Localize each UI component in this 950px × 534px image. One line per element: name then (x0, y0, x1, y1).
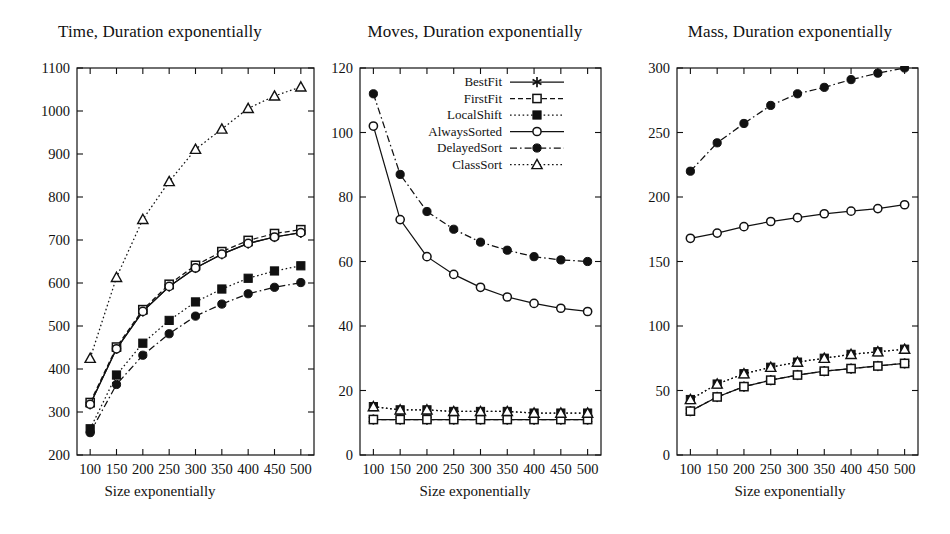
data-point-marker (423, 415, 431, 423)
data-point-marker (740, 383, 748, 391)
data-point-marker (112, 371, 120, 379)
x-axis-tick-label: 500 (577, 461, 599, 477)
data-point-marker (450, 225, 458, 233)
data-point-marker (820, 210, 828, 218)
legend: BestFitFirstFitLocalShiftAlwaysSortedDel… (428, 74, 564, 172)
series-alwayssorted (686, 201, 908, 243)
data-point-marker (369, 415, 377, 423)
data-point-marker (297, 229, 305, 237)
x-axis-tick-label: 400 (523, 461, 545, 477)
data-point-marker (296, 82, 306, 91)
y-axis-tick-label: 250 (648, 125, 670, 141)
data-point-marker (901, 64, 909, 72)
data-point-marker (244, 274, 252, 282)
x-axis-tick-label: 100 (680, 461, 702, 477)
y-axis-tick-label: 150 (648, 254, 670, 270)
chart-panel-mass: Mass, Duration exponentially 05010015020… (630, 0, 950, 534)
data-point-marker (740, 119, 748, 127)
data-point-marker (793, 371, 801, 379)
plot-area-mass: 0501001502002503001001502002503003504004… (630, 0, 950, 534)
data-point-marker (112, 380, 120, 388)
x-axis-tick-label: 400 (237, 461, 259, 477)
x-axis-tick-label: 200 (733, 461, 755, 477)
plot-area-time: 2003004005006007008009001000110010015020… (0, 0, 320, 534)
x-axis-tick-label: 400 (840, 461, 862, 477)
y-axis-tick-label: 300 (48, 404, 70, 420)
data-point-marker (901, 201, 909, 209)
data-point-marker (423, 253, 431, 261)
data-point-marker (165, 330, 173, 338)
data-point-marker (270, 267, 278, 275)
data-point-marker (244, 290, 252, 298)
data-point-marker (218, 300, 226, 308)
data-point-marker (686, 407, 694, 415)
x-axis-tick-label: 300 (787, 461, 809, 477)
x-axis-tick-label: 100 (363, 461, 385, 477)
data-point-marker (503, 246, 511, 254)
data-point-marker (476, 415, 484, 423)
data-point-marker (86, 400, 94, 408)
data-point-marker (139, 307, 147, 315)
series-delayedsort (686, 64, 908, 175)
plot-area-moves: 0204060801001201001502002503003504004505… (320, 0, 630, 534)
data-point-marker (767, 217, 775, 225)
y-axis-tick-label: 400 (48, 361, 70, 377)
data-point-marker (269, 91, 279, 100)
data-point-marker (139, 339, 147, 347)
data-point-marker (874, 205, 882, 213)
chart-panel-time: Time, Duration exponentially 20030040050… (0, 0, 320, 534)
data-point-marker (847, 364, 855, 372)
data-point-marker (557, 304, 565, 312)
y-axis-tick-label: 200 (48, 447, 70, 463)
y-axis-tick-label: 1100 (42, 60, 70, 76)
data-point-marker (297, 262, 305, 270)
legend-label: DelayedSort (437, 140, 502, 155)
data-point-marker (218, 285, 226, 293)
data-point-marker (901, 359, 909, 367)
data-point-marker (503, 415, 511, 423)
x-axis-tick-label: 450 (264, 461, 286, 477)
x-axis-tick-label: 350 (211, 461, 233, 477)
x-axis-tick-label: 100 (79, 461, 101, 477)
data-point-marker (217, 124, 227, 133)
data-point-marker (165, 316, 173, 324)
x-axis-tick-label: 150 (106, 461, 128, 477)
x-axis-tick-label: 450 (550, 461, 572, 477)
y-axis-tick-label: 600 (48, 275, 70, 291)
data-point-marker (847, 207, 855, 215)
x-axis-tick-label: 250 (760, 461, 782, 477)
data-point-marker (686, 234, 694, 242)
chart-panel-moves: Moves, Duration exponentially 0204060801… (320, 0, 630, 534)
y-axis-tick-label: 0 (346, 447, 353, 463)
y-axis-tick-label: 80 (339, 189, 354, 205)
y-axis-tick-label: 1000 (41, 103, 70, 119)
data-point-marker (270, 233, 278, 241)
x-axis-tick-label: 250 (158, 461, 180, 477)
legend-label: LocalShift (447, 107, 502, 122)
data-point-marker (396, 415, 404, 423)
data-point-marker (165, 282, 173, 290)
data-point-marker (820, 83, 828, 91)
data-point-marker (190, 144, 200, 153)
legend-label: BestFit (464, 74, 502, 89)
x-axis-tick-label: 350 (813, 461, 835, 477)
y-axis-tick-label: 500 (48, 318, 70, 334)
x-axis-tick-label: 200 (416, 461, 438, 477)
figure-container: Time, Duration exponentially 20030040050… (0, 0, 950, 534)
data-point-marker (450, 415, 458, 423)
data-point-marker (191, 298, 199, 306)
data-point-marker (396, 215, 404, 223)
data-point-marker (111, 272, 121, 281)
data-point-marker (713, 139, 721, 147)
data-point-marker (244, 239, 252, 247)
data-point-marker (874, 69, 882, 77)
x-axis-tick-label: 200 (132, 461, 154, 477)
data-point-marker (243, 103, 253, 112)
legend-marker (533, 144, 541, 152)
data-point-marker (530, 253, 538, 261)
data-point-marker (820, 367, 828, 375)
data-point-marker (139, 351, 147, 359)
y-axis-tick-label: 120 (331, 60, 353, 76)
data-point-marker (847, 76, 855, 84)
legend-marker (533, 94, 541, 102)
